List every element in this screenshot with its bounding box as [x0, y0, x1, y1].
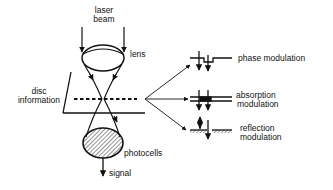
- photocells: [83, 128, 123, 158]
- signal-label: signal: [109, 169, 131, 178]
- reflection-modulation-symbol: [190, 117, 232, 139]
- lens-label-text: lens: [130, 49, 146, 59]
- phase-modulation-symbol: [190, 51, 232, 71]
- absorption-modulation-line2: modulation: [236, 100, 279, 109]
- converging-rays: [84, 64, 122, 99]
- absorption-modulation-symbol: [190, 90, 232, 110]
- laser-beam-label: laser beam: [88, 6, 120, 24]
- phase-modulation-text: phase modulation: [238, 54, 305, 63]
- signal-label-text: signal: [109, 168, 131, 178]
- reflection-modulation-label: reflection modulation: [240, 124, 282, 142]
- lens-label: lens: [130, 50, 146, 59]
- reflection-modulation-line2: modulation: [240, 133, 282, 142]
- lens: [82, 45, 124, 71]
- laser-beam-label-line2: beam: [88, 15, 120, 24]
- absorption-modulation-label: absorption modulation: [236, 91, 279, 109]
- disc: [63, 72, 145, 113]
- disc-information-label: disc information: [14, 87, 64, 105]
- photocells-label: photocells: [124, 149, 162, 158]
- phase-modulation-label: phase modulation: [238, 54, 305, 63]
- disc-label-line2: information: [14, 96, 64, 105]
- modulation-pointers: [145, 65, 190, 130]
- photocells-label-text: photocells: [124, 148, 162, 158]
